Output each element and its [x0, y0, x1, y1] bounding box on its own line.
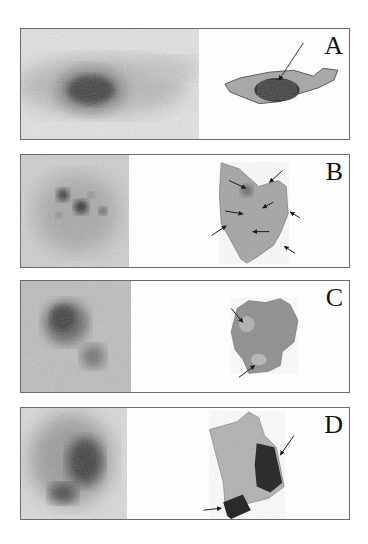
arrow-icon	[269, 171, 282, 183]
tissue-specimen-c	[131, 281, 350, 392]
figure-panel-c: C	[20, 280, 350, 393]
tissue-specimen-d	[127, 408, 350, 519]
panel-label-d: D	[324, 412, 343, 438]
arrow-icon	[280, 436, 294, 456]
scintigraphy-scan-d	[21, 408, 127, 519]
arrow-icon	[290, 212, 300, 218]
figure-panel-a: A	[20, 28, 350, 140]
figure-panel-b: B	[20, 154, 350, 268]
figure-panel-d: D	[20, 407, 350, 520]
scintigraphy-scan-b	[21, 155, 129, 267]
arrow-icon	[212, 226, 227, 236]
arrow-icon	[284, 246, 295, 253]
scintigraphy-scan-c	[21, 281, 131, 392]
arrow-icon	[204, 508, 222, 510]
scintigraphy-scan-a	[21, 29, 199, 139]
panel-label-a: A	[324, 33, 343, 59]
panel-label-c: C	[326, 285, 343, 311]
tissue-specimen-b	[129, 155, 350, 267]
panel-label-b: B	[326, 159, 343, 185]
